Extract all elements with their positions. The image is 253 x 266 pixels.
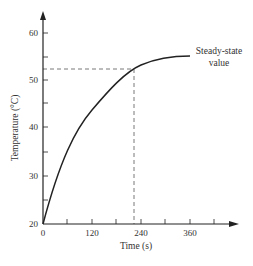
x-axis-arrow-icon [229,221,239,227]
y-axis-arrow-icon [40,11,46,20]
y-tick-label-50: 50 [29,75,39,85]
y-ticks [43,33,48,200]
y-axis-label: Temperature (°C) [10,95,21,162]
steady-state-value-label: value [209,58,230,68]
y-tick-label-40: 40 [29,122,39,132]
chart: 20 30 40 50 60 0 120 240 360 Time (s) Te… [0,0,253,266]
x-tick-label-240: 240 [134,228,148,238]
x-axis-label: Time (s) [120,241,152,252]
x-tick-label-0: 0 [41,228,46,238]
y-tick-label-20: 20 [29,219,39,229]
y-tick-label-60: 60 [29,28,39,38]
temperature-curve [43,56,190,224]
y-tick-label-30: 30 [29,171,39,181]
steady-state-label: Steady-state [196,46,242,56]
x-ticks [67,219,214,224]
x-tick-label-360: 360 [183,228,197,238]
x-tick-label-120: 120 [85,228,99,238]
